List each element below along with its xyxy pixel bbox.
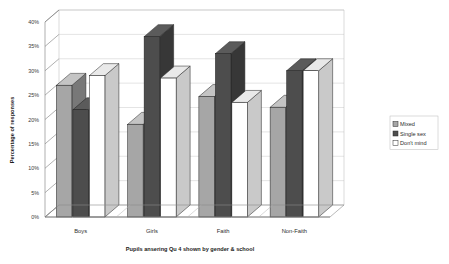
legend-item-mixed[interactable]: Mixed [393, 121, 415, 127]
bar-front-face [287, 71, 303, 217]
legend-label: Mixed [400, 121, 415, 127]
bar-front-face [56, 85, 72, 217]
bar-front-face [161, 78, 177, 217]
legend-item-don-t-mind[interactable]: Don't mind [393, 140, 427, 146]
bar-front-face [199, 97, 215, 217]
y-tick-label: 10% [28, 165, 39, 171]
y-tick-label: 30% [28, 68, 39, 74]
legend-label: Single sex [400, 131, 426, 137]
legend-item-single-sex[interactable]: Single sex [393, 131, 426, 137]
y-tick-label: 25% [28, 92, 39, 98]
legend-swatch [393, 141, 398, 146]
y-tick-label: 40% [28, 19, 39, 25]
x-category-label: Non-Faith [282, 228, 307, 234]
bar-don-t-mind-non-faith [303, 59, 333, 217]
y-tick-label: 0% [31, 214, 39, 220]
bar-front-face [270, 107, 286, 217]
chart-canvas: 0%5%10%15%20%25%30%35%40% BoysGirlsFaith… [0, 0, 449, 264]
y-tick-label: 15% [28, 141, 39, 147]
bar-don-t-mind-girls [161, 66, 191, 217]
bar-front-face [89, 76, 105, 217]
legend-swatch [393, 131, 398, 136]
legend: MixedSingle sexDon't mind [390, 116, 438, 150]
bar-front-face [303, 71, 319, 217]
bar-don-t-mind-boys [89, 64, 119, 217]
bar-don-t-mind-faith [232, 90, 262, 217]
x-category-label: Girls [146, 228, 158, 234]
legend-label: Don't mind [400, 140, 427, 146]
y-tick-label: 5% [31, 190, 39, 196]
bar-side-face [319, 59, 333, 217]
bar-front-face [232, 102, 248, 217]
y-tick-label: 20% [28, 117, 39, 123]
x-category-label: Faith [217, 228, 230, 234]
bar-side-face [176, 66, 190, 217]
y-axis-title: Percentage of responses [9, 97, 15, 164]
legend-swatch [393, 122, 398, 127]
bar-side-face [247, 90, 261, 217]
x-axis-title: Pupils ansering Qu 4 shown by gender & s… [126, 246, 255, 252]
x-category-label: Boys [74, 228, 87, 234]
bar-front-face [128, 124, 144, 217]
bar-chart-3d: 0%5%10%15%20%25%30%35%40% BoysGirlsFaith… [0, 0, 449, 264]
bar-front-face [215, 54, 231, 217]
y-tick-label: 35% [28, 43, 39, 49]
bar-side-face [105, 64, 119, 217]
bar-front-face [144, 37, 160, 217]
bar-front-face [73, 110, 89, 217]
